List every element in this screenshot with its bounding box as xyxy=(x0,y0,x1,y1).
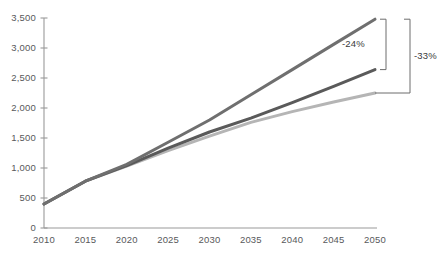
x-axis-tick-label: 2025 xyxy=(148,234,188,245)
line-chart: 05001,0001,5002,0002,5003,0003,500 20102… xyxy=(0,0,437,263)
x-axis-tick-label: 2035 xyxy=(231,234,271,245)
y-axis-tick-label: 1,500 xyxy=(0,132,36,143)
series-line-lower-line xyxy=(44,93,375,204)
x-axis-tick-label: 2045 xyxy=(314,234,354,245)
y-axis-tick-label: 500 xyxy=(0,192,36,203)
y-axis-tick-label: 1,000 xyxy=(0,162,36,173)
x-axis-tick-label: 2015 xyxy=(65,234,105,245)
chart-series-lines xyxy=(44,19,375,204)
y-axis-tick-label: 0 xyxy=(0,222,36,233)
annotation-label-inner: -24% xyxy=(342,38,365,49)
x-axis-tick-label: 2030 xyxy=(190,234,230,245)
y-axis-tick-label: 2,000 xyxy=(0,102,36,113)
x-axis-tick-label: 2020 xyxy=(107,234,147,245)
y-axis-tick-label: 3,000 xyxy=(0,42,36,53)
annotation-label-outer: -33% xyxy=(414,50,437,61)
bracket-inner xyxy=(380,19,386,69)
y-axis-tick-label: 2,500 xyxy=(0,72,36,83)
chart-canvas xyxy=(0,0,437,263)
bracket-outer xyxy=(404,19,410,93)
x-axis-tick-label: 2010 xyxy=(24,234,64,245)
series-line-upper-line xyxy=(44,19,375,204)
y-axis-tick-label: 3,500 xyxy=(0,12,36,23)
chart-annotation-brackets xyxy=(375,19,410,93)
x-axis-tick-label: 2040 xyxy=(272,234,312,245)
x-axis-tick-label: 2050 xyxy=(355,234,395,245)
